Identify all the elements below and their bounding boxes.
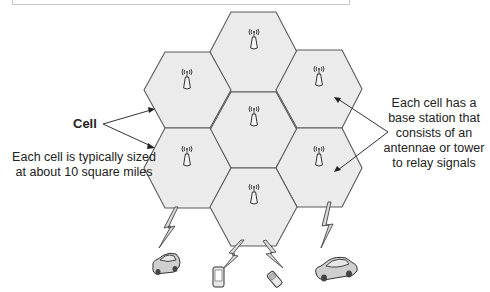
cell-arrow-lower — [103, 124, 151, 146]
cell-size-note: Each cell is typically sized at about 10… — [6, 150, 162, 180]
cell-label: Cell — [73, 116, 97, 131]
cell-arrow-upper — [103, 110, 151, 124]
right-car-icon — [316, 257, 358, 281]
lightning-signal-icon — [321, 202, 333, 248]
base-station-note: Each cell has a base station that consis… — [378, 96, 490, 171]
lightning-signal-icon — [159, 207, 178, 248]
flip-phone-icon — [266, 271, 282, 288]
arrowhead — [147, 143, 155, 149]
smartphone-icon — [213, 267, 224, 287]
left-car-icon — [153, 253, 180, 275]
